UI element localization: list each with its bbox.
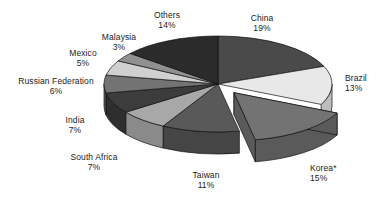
slice-label-korea-value: 15% bbox=[310, 173, 364, 183]
slice-label-taiwan-name: Taiwan bbox=[181, 170, 231, 180]
slice-label-india-name: India bbox=[55, 115, 95, 125]
slice-label-south-africa-value: 7% bbox=[56, 162, 132, 172]
slice-label-others: Others 14% bbox=[138, 10, 196, 30]
slice-label-brazil-name: Brazil bbox=[345, 73, 389, 83]
slice-label-taiwan: Taiwan 11% bbox=[181, 170, 231, 190]
slice-label-russian-federation-name: Russian Federation bbox=[7, 76, 105, 86]
slice-label-china-name: China bbox=[236, 13, 288, 23]
slice-label-malaysia-name: Malaysia bbox=[92, 32, 146, 42]
slice-label-russian-federation: Russian Federation 6% bbox=[7, 76, 105, 96]
slice-label-india-value: 7% bbox=[55, 125, 95, 135]
slice-label-india: India 7% bbox=[55, 115, 95, 135]
slice-label-brazil: Brazil 13% bbox=[345, 73, 389, 93]
slice-label-south-africa: South Africa 7% bbox=[56, 152, 132, 172]
slice-label-korea: Korea* 15% bbox=[310, 163, 364, 183]
slice-label-china: China 19% bbox=[236, 13, 288, 33]
slice-label-south-africa-name: South Africa bbox=[56, 152, 132, 162]
slice-label-malaysia-value: 3% bbox=[92, 42, 146, 52]
slice-label-taiwan-value: 11% bbox=[181, 180, 231, 190]
slice-label-mexico-value: 5% bbox=[60, 58, 106, 68]
slice-label-china-value: 19% bbox=[236, 23, 288, 33]
slice-label-others-value: 14% bbox=[138, 20, 196, 30]
slice-label-russian-federation-value: 6% bbox=[7, 86, 105, 96]
slice-label-brazil-value: 13% bbox=[345, 83, 389, 93]
slice-label-others-name: Others bbox=[138, 10, 196, 20]
slice-label-malaysia: Malaysia 3% bbox=[92, 32, 146, 52]
slice-label-korea-name: Korea* bbox=[310, 163, 364, 173]
pie-chart: Others 14% China 19% Brazil 13% Korea* 1… bbox=[0, 0, 389, 200]
